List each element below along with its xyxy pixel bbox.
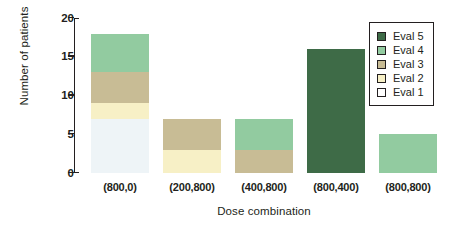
bar-stack[interactable] xyxy=(307,49,365,173)
legend-item[interactable]: Eval 4 xyxy=(377,43,424,57)
bar-segment[interactable] xyxy=(235,119,293,150)
legend-item[interactable]: Eval 2 xyxy=(377,71,424,85)
legend-item[interactable]: Eval 1 xyxy=(377,85,424,99)
bar-segment[interactable] xyxy=(163,150,221,173)
y-tick-label: 10 xyxy=(61,90,74,102)
bar-segment[interactable] xyxy=(91,34,149,73)
bar-segment[interactable] xyxy=(307,49,365,173)
y-axis-cap-top xyxy=(74,18,79,19)
y-tick-label: 15 xyxy=(61,51,74,63)
bar-segment[interactable] xyxy=(91,103,149,119)
legend-item[interactable]: Eval 5 xyxy=(377,29,424,43)
y-axis-cap-bottom xyxy=(74,172,79,173)
legend-swatch-icon xyxy=(377,88,386,97)
bar-chart-figure: Number of patients 05101520 (800,0)(200,… xyxy=(0,0,471,236)
legend-item[interactable]: Eval 3 xyxy=(377,57,424,71)
bar-segment[interactable] xyxy=(91,119,149,173)
legend-swatch-icon xyxy=(377,60,386,69)
bar-stack[interactable] xyxy=(163,119,221,173)
x-tick-label: (800,0) xyxy=(84,181,156,193)
y-tick-label: 0 xyxy=(68,167,74,179)
legend-swatch-icon xyxy=(377,74,386,83)
bar-segment[interactable] xyxy=(91,72,149,103)
bar-stack[interactable] xyxy=(235,119,293,173)
legend-label: Eval 2 xyxy=(393,73,424,84)
legend-swatch-icon xyxy=(377,46,386,55)
legend-label: Eval 3 xyxy=(393,59,424,70)
chart-legend: Eval 5Eval 4Eval 3Eval 2Eval 1 xyxy=(369,22,434,106)
x-tick-label: (800,800) xyxy=(372,181,444,193)
legend-label: Eval 4 xyxy=(393,45,424,56)
bar-segment[interactable] xyxy=(235,150,293,173)
y-axis-line xyxy=(74,18,75,173)
x-tick-label: (400,800) xyxy=(228,181,300,193)
y-axis-title: Number of patients xyxy=(18,0,30,126)
legend-label: Eval 1 xyxy=(393,87,424,98)
bar-stack[interactable] xyxy=(91,34,149,174)
legend-swatch-icon xyxy=(377,32,386,41)
x-tick-label: (800,400) xyxy=(300,181,372,193)
x-tick-label: (200,800) xyxy=(156,181,228,193)
x-axis-title: Dose combination xyxy=(84,205,444,217)
legend-label: Eval 5 xyxy=(393,31,424,42)
y-tick-label: 20 xyxy=(61,12,74,24)
y-tick-label: 5 xyxy=(68,129,74,141)
bar-segment[interactable] xyxy=(379,134,437,173)
bar-segment[interactable] xyxy=(163,119,221,150)
bar-stack[interactable] xyxy=(379,134,437,173)
